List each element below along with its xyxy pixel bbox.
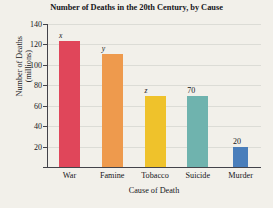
y-axis-tick bbox=[43, 147, 47, 148]
y-axis-tick-label: 80 bbox=[34, 81, 42, 90]
bar: 70 bbox=[187, 96, 208, 168]
y-axis-tick bbox=[43, 85, 47, 86]
bar-value-label: y bbox=[102, 44, 105, 53]
y-axis-title-line1: Number of Deaths bbox=[15, 10, 24, 122]
bar-value-label: 20 bbox=[233, 137, 241, 146]
y-axis-tick-label: 120 bbox=[30, 40, 42, 49]
y-axis-tick bbox=[43, 44, 47, 45]
chart-title: Number of Deaths in the 20th Century, by… bbox=[0, 3, 273, 12]
x-axis-tick-label: Murder bbox=[228, 171, 253, 180]
y-axis-tick bbox=[43, 126, 47, 127]
bar: z bbox=[145, 96, 166, 168]
x-axis-tick-label: Tobacco bbox=[141, 171, 169, 180]
bar-slot: 20 bbox=[233, 147, 248, 167]
gridline bbox=[48, 24, 261, 25]
gridline bbox=[48, 85, 261, 86]
bar-value-label: 70 bbox=[187, 86, 195, 95]
bar-slot: y bbox=[102, 54, 123, 167]
y-axis-tick bbox=[43, 106, 47, 107]
x-axis-tick-label: War bbox=[63, 171, 76, 180]
bar-slot: 70 bbox=[187, 96, 208, 168]
y-axis-tick-label: 20 bbox=[34, 142, 42, 151]
y-axis-tick bbox=[43, 24, 47, 25]
bar: x bbox=[59, 41, 80, 167]
bar-value-label: z bbox=[145, 86, 148, 95]
gridline bbox=[48, 65, 261, 66]
y-axis-tick-label: 60 bbox=[34, 101, 42, 110]
x-axis-title: Cause of Death bbox=[47, 186, 261, 195]
y-axis-tick bbox=[43, 65, 47, 66]
y-axis-tick-label: 140 bbox=[30, 20, 42, 29]
bar-value-label: x bbox=[59, 31, 62, 40]
y-axis-tick bbox=[43, 167, 47, 168]
bar-chart: Number of Deaths in the 20th Century, by… bbox=[0, 0, 273, 208]
bar-slot: z bbox=[145, 96, 166, 168]
bar: 20 bbox=[233, 147, 248, 167]
gridline bbox=[48, 44, 261, 45]
y-axis-tick-label: 40 bbox=[34, 122, 42, 131]
y-axis-tick-label: 100 bbox=[30, 60, 42, 69]
bar: y bbox=[102, 54, 123, 167]
x-axis-tick-label: Suicide bbox=[186, 171, 211, 180]
bar-slot: x bbox=[59, 41, 80, 167]
plot-area: 20406080100120140 xyz7020 WarFamineTobac… bbox=[47, 24, 261, 168]
x-axis-line bbox=[47, 167, 261, 168]
x-axis-tick-label: Famine bbox=[100, 171, 125, 180]
